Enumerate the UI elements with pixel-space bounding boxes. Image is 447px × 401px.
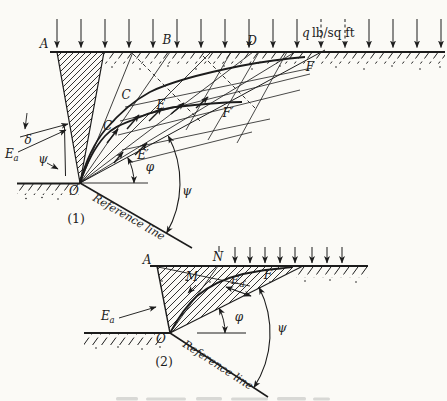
textbook-figure-page: Reference line A B D q lb/sq ft F C E C′…	[0, 0, 447, 401]
base-ground-dots-1	[25, 197, 59, 200]
culmann-method-figure: Reference line A B D q lb/sq ft F C E C′…	[0, 0, 447, 401]
surcharge-units-label: lb/sq ft	[312, 26, 355, 40]
base-ground-hatch-2	[84, 334, 164, 345]
dot	[363, 68, 365, 70]
smudge	[196, 397, 222, 401]
point-label-e: E	[156, 98, 166, 112]
psi-angle-arc-2	[254, 288, 270, 388]
ea-outer-label-sub: a	[110, 315, 115, 325]
point-label-a1: A	[39, 37, 49, 51]
dot	[355, 281, 357, 283]
diagram-1-index: (1)	[67, 211, 85, 226]
dot	[329, 279, 331, 281]
ea-label-1-sub: a	[14, 153, 19, 163]
angle-label-delta: δ	[24, 133, 31, 147]
retaining-wall-1	[57, 52, 104, 183]
dashed-guide	[133, 54, 200, 121]
point-label-b: B	[162, 33, 172, 47]
angle-label-phi-2: φ	[235, 310, 244, 324]
psi-wall-tick-arrow	[47, 163, 58, 169]
offset-vector	[171, 103, 184, 114]
reference-line-text: Reference line	[180, 337, 256, 393]
ground-hatch-band-1	[104, 53, 445, 64]
dot	[391, 65, 393, 67]
dot	[57, 198, 59, 200]
dot	[159, 346, 161, 348]
point-label-o2: O	[156, 332, 166, 346]
base-ground-dots-2	[95, 346, 161, 350]
dot	[95, 347, 97, 349]
dot	[251, 68, 253, 70]
dot	[41, 197, 43, 199]
ea-label-1-base: E	[4, 147, 14, 161]
smudge	[146, 398, 186, 401]
angle-label-psi-2: ψ	[277, 321, 287, 335]
ground-hatch-band-2	[296, 267, 368, 278]
dot	[25, 198, 27, 200]
ea-inner-label-sub: a	[240, 279, 245, 289]
dot	[195, 68, 197, 70]
dot	[111, 66, 113, 68]
angle-label-psi-1: ψ	[182, 184, 192, 198]
dot	[419, 68, 421, 70]
dot	[117, 346, 119, 348]
surcharge-q-label: q	[302, 26, 310, 40]
point-label-f2: F	[263, 268, 273, 282]
point-label-f-prime: F′	[221, 106, 233, 120]
mesh-line	[118, 90, 300, 135]
smudge	[231, 398, 268, 401]
smudge	[277, 397, 306, 401]
point-label-c-prime: C′	[103, 119, 115, 133]
ea-inner-label-base: E	[230, 274, 239, 287]
delta-tick-arrow	[25, 113, 27, 129]
angle-label-psi-wall: ψ	[38, 152, 48, 166]
point-label-a2: A	[142, 253, 152, 267]
angle-label-phi-1: φ	[146, 160, 155, 174]
diagram-1: Reference line A B D q lb/sq ft F C E C′…	[4, 19, 445, 248]
dot	[439, 66, 441, 68]
phi-angle-arc-2	[219, 308, 225, 333]
point-label-m: M	[185, 270, 199, 284]
dot	[167, 65, 169, 67]
ea-outer-label-base: E	[100, 309, 110, 323]
reference-line-text: Reference line	[90, 191, 168, 244]
dot	[141, 348, 143, 350]
point-label-n: N	[212, 250, 224, 264]
smudge	[313, 398, 330, 401]
dot	[304, 280, 306, 282]
reference-line-label-1: Reference line	[90, 191, 168, 244]
diagram-2: Reference line A N F M O φ ψ E a E a (2)	[84, 246, 368, 397]
point-label-o1: O	[69, 184, 79, 198]
reference-line-label-2: Reference line	[180, 337, 256, 393]
point-label-d: D	[246, 34, 257, 48]
smudge	[116, 397, 138, 401]
dot	[139, 68, 141, 70]
dot	[335, 66, 337, 68]
surcharge-arrows-2	[219, 246, 342, 263]
diagram-2-index: (2)	[155, 354, 173, 369]
vertical-datum-1	[65, 127, 66, 176]
ea-outer-arrow	[119, 307, 156, 318]
caption-cutoff-smudge	[116, 397, 330, 401]
point-label-f: F	[305, 60, 315, 74]
culmann-curve-lower	[80, 102, 242, 183]
point-label-c: C	[121, 88, 130, 102]
